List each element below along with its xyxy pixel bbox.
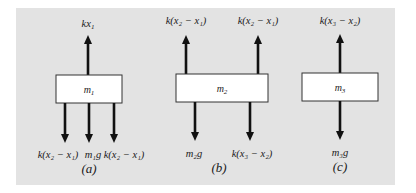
arrowhead-down-icon: [61, 134, 69, 143]
caption-a: (a): [81, 161, 96, 176]
force-label-up-2: k(x₂ − x₁): [238, 15, 279, 27]
caption-c: (c): [333, 159, 347, 174]
diagram-a: kx1 m1 k(x₂ − x₁) m₁g k(x₂ − x₁) (a): [38, 18, 145, 176]
arrowhead-up-icon: [254, 35, 262, 44]
diagram-c: k(x₃ − x₂) m3 m₃g (c): [302, 15, 378, 174]
arrowhead-down-icon: [85, 134, 93, 143]
free-body-diagrams: kx1 m1 k(x₂ − x₁) m₁g k(x₂ − x₁) (a) k(x…: [0, 0, 416, 193]
arrowhead-up-icon: [182, 35, 190, 44]
arrowhead-down-icon: [191, 132, 199, 141]
force-label-down-1: k(x₂ − x₁): [38, 149, 79, 161]
force-label-up: kx1: [82, 18, 95, 31]
arrowhead-down-icon: [336, 131, 344, 140]
force-label-down-1: m₂g: [186, 148, 202, 159]
force-label-down-2: m₁g: [85, 149, 101, 160]
force-label-down-2: k(x₃ − x₂): [232, 148, 273, 160]
caption-b: (b): [211, 160, 226, 175]
force-label-up-1: k(x₂ − x₁): [166, 15, 207, 27]
force-label-down: m₃g: [332, 147, 348, 158]
diagram-b: k(x₂ − x₁) k(x₂ − x₁) m2 m₂g k(x₃ − x₂) …: [166, 15, 279, 175]
arrowhead-up-icon: [336, 34, 344, 43]
arrowhead-up-icon: [84, 35, 92, 44]
force-label-down-3: k(x₂ − x₁): [104, 149, 145, 161]
force-label-up: k(x₃ − x₂): [320, 15, 361, 27]
arrowhead-down-icon: [246, 132, 254, 141]
arrowhead-down-icon: [110, 134, 118, 143]
